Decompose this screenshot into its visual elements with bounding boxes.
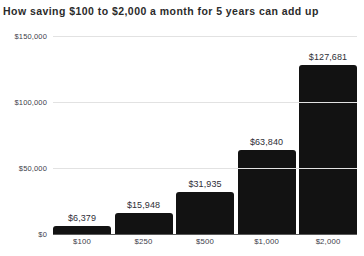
bar[interactable] [115,213,173,234]
bar-series: $6,379$15,948$31,935$63,840$127,681 [53,36,357,234]
bar-slot[interactable]: $15,948 [115,36,173,234]
x-axis-tick-label: $250 [115,237,173,246]
bar[interactable] [53,226,111,234]
plot-area: $6,379$15,948$31,935$63,840$127,681 $0$5… [53,36,357,234]
bar-slot[interactable]: $127,681 [299,36,357,234]
y-axis-tick-label: $0 [38,230,47,239]
x-axis: $100$250$500$1,000$2,000 [53,237,357,246]
bar-value-label: $15,948 [127,200,160,210]
gridline [53,36,357,37]
bar[interactable] [238,150,296,234]
bar[interactable] [299,65,357,234]
bar-value-label: $127,681 [309,52,347,62]
y-axis-tick-label: $50,000 [19,164,47,173]
x-axis-tick-label: $1,000 [238,237,296,246]
chart-title: How saving $100 to $2,000 a month for 5 … [3,5,361,18]
bar[interactable] [176,192,234,234]
bar-value-label: $31,935 [188,179,221,189]
y-axis-tick-label: $150,000 [15,32,47,41]
y-axis-tick-label: $100,000 [15,98,47,107]
gridline [53,168,357,169]
x-axis-tick-label: $2,000 [299,237,357,246]
bar-slot[interactable]: $6,379 [53,36,111,234]
bar-slot[interactable]: $31,935 [176,36,234,234]
x-axis-tick-label: $500 [176,237,234,246]
bar-slot[interactable]: $63,840 [238,36,296,234]
gridline [53,102,357,103]
bar-chart: How saving $100 to $2,000 a month for 5 … [0,0,364,256]
x-axis-tick-label: $100 [53,237,111,246]
bar-value-label: $63,840 [250,137,283,147]
axis-baseline [53,234,357,235]
bar-value-label: $6,379 [68,213,96,223]
